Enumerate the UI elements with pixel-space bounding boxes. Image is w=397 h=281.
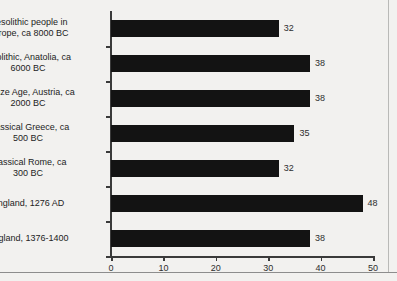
x-axis-tick-label: 0 xyxy=(108,263,113,273)
page-edge-bottom xyxy=(0,272,397,273)
page-edge-right xyxy=(388,0,389,273)
category-label: Mesolithic people in Europe, ca 8000 BC xyxy=(0,17,79,39)
x-axis-tick xyxy=(321,256,323,261)
y-axis-tick xyxy=(106,221,111,223)
x-axis-tick-label: 20 xyxy=(211,263,221,273)
x-axis-tick xyxy=(216,256,218,261)
y-axis-tick xyxy=(106,151,111,153)
x-axis-tick-label: 10 xyxy=(158,263,168,273)
bar xyxy=(111,230,310,247)
x-axis-tick-label: 40 xyxy=(316,263,326,273)
x-axis-tick xyxy=(163,256,165,261)
bar xyxy=(111,160,279,177)
bar-value-label: 35 xyxy=(299,126,309,141)
bar-value-label: 38 xyxy=(315,56,325,71)
y-axis-tick xyxy=(106,81,111,83)
x-axis-tick xyxy=(268,256,270,261)
bar-value-label: 38 xyxy=(315,91,325,106)
bar-value-label: 32 xyxy=(284,161,294,176)
x-axis-tick-label: 50 xyxy=(368,263,378,273)
bar xyxy=(111,125,294,142)
x-axis-tick xyxy=(373,256,375,261)
bar xyxy=(111,20,279,37)
x-axis-line xyxy=(110,256,373,258)
category-label: Bronze Age, Austria, ca 2000 BC xyxy=(0,87,79,109)
category-label: Classical Rome, ca 300 BC xyxy=(0,157,79,179)
chart-page: 32Mesolithic people in Europe, ca 8000 B… xyxy=(0,0,397,281)
bar-value-label: 48 xyxy=(368,196,378,211)
bar-value-label: 32 xyxy=(284,21,294,36)
y-axis-tick xyxy=(106,186,111,188)
y-axis-tick xyxy=(106,46,111,48)
x-axis-tick xyxy=(111,256,113,261)
y-axis-tick xyxy=(106,116,111,118)
bar-value-label: 38 xyxy=(315,231,325,246)
category-label: England, 1376-1400 xyxy=(0,233,79,244)
category-label: Classical Greece, ca 500 BC xyxy=(0,122,79,144)
bar xyxy=(111,90,310,107)
category-label: England, 1276 AD xyxy=(0,198,79,209)
bar xyxy=(111,195,363,212)
bar-chart-plot-area: 32Mesolithic people in Europe, ca 8000 B… xyxy=(111,11,373,256)
category-label: Neolithic, Anatolia, ca 6000 BC xyxy=(0,52,79,74)
x-axis-tick-label: 30 xyxy=(263,263,273,273)
bar xyxy=(111,55,310,72)
